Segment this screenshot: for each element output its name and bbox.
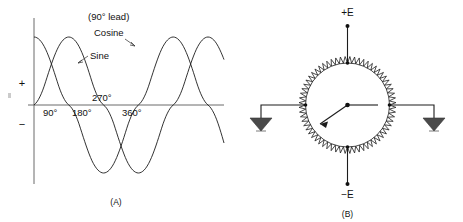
positive-terminal-dot xyxy=(346,24,350,28)
potentiometer-svg: +E −E (B) xyxy=(232,0,463,222)
scan-artifact-speck xyxy=(8,93,11,98)
negative-terminal-label: −E xyxy=(341,189,354,200)
left-ground-icon xyxy=(250,118,272,131)
sine-annotation-label: Sine xyxy=(90,50,109,61)
axis-positive-sign: + xyxy=(19,77,25,89)
right-ground-icon xyxy=(423,118,445,131)
tick-label-360: 360° xyxy=(122,107,142,118)
figure-a-caption: (A) xyxy=(110,197,122,207)
wiper-arrowhead-icon xyxy=(320,122,328,129)
right-ground-wire xyxy=(390,105,435,118)
figure-b-caption: (B) xyxy=(342,209,354,219)
lead-note-label: (90° lead) xyxy=(88,11,129,22)
figure-b-potentiometer-diagram: +E −E (B) xyxy=(232,0,463,222)
tick-label-180: 180° xyxy=(72,107,92,118)
positive-terminal-label: +E xyxy=(341,7,354,18)
bottom-tap-dot xyxy=(346,145,350,149)
rotor-assembly[interactable] xyxy=(320,103,378,128)
tick-label-90: 90° xyxy=(43,107,58,118)
negative-terminal-dot xyxy=(346,182,350,186)
left-tap-dot xyxy=(304,103,308,107)
tick-label-270: 270° xyxy=(92,92,112,103)
left-ground-wire xyxy=(261,105,306,118)
rotor-arm-wiper[interactable] xyxy=(320,105,348,124)
rotor-hub-dot xyxy=(345,103,350,108)
waveform-svg: + − 90° 180° 270° 360° (90° lead) Cosine… xyxy=(0,0,232,222)
top-tap-dot xyxy=(346,61,350,65)
figure-a-waveform-plot: + − 90° 180° 270° 360° (90° lead) Cosine… xyxy=(0,0,232,222)
cosine-annotation-label: Cosine xyxy=(94,27,124,38)
right-tap-dot xyxy=(388,103,392,107)
axis-negative-sign: − xyxy=(19,118,25,130)
